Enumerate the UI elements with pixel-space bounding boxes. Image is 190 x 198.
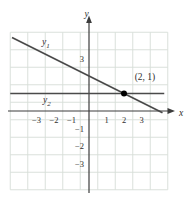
y-tick-label: −3 (75, 159, 84, 169)
x-axis-label: x (178, 108, 184, 118)
x-tick-label: 3 (139, 115, 143, 125)
intersection-point-dot (121, 91, 127, 97)
x-tick-label: 2 (122, 115, 126, 125)
point-marker (121, 91, 127, 97)
line1-label-subscript: 1 (46, 42, 50, 50)
line2-label-subscript: 2 (47, 100, 51, 108)
line1-label: y1 (41, 37, 50, 50)
y-tick-label: −2 (75, 141, 84, 151)
x-tick-label: 1 (104, 115, 108, 125)
y-tick-label: −1 (75, 124, 84, 134)
x-tick-label: −2 (49, 115, 58, 125)
y-tick-label: 3 (80, 54, 84, 64)
coordinate-plane: −3−2−11233−1−2−3 y x y1 y2 (2, 1) (0, 0, 190, 198)
x-axis-arrow-icon (168, 108, 176, 114)
x-tick-label: −3 (32, 115, 41, 125)
graph-figure: −3−2−11233−1−2−3 y x y1 y2 (2, 1) (0, 0, 190, 198)
y-axis-label: y (83, 9, 89, 19)
line2-label: y2 (42, 95, 51, 108)
point-coordinates-label: (2, 1) (135, 72, 156, 83)
